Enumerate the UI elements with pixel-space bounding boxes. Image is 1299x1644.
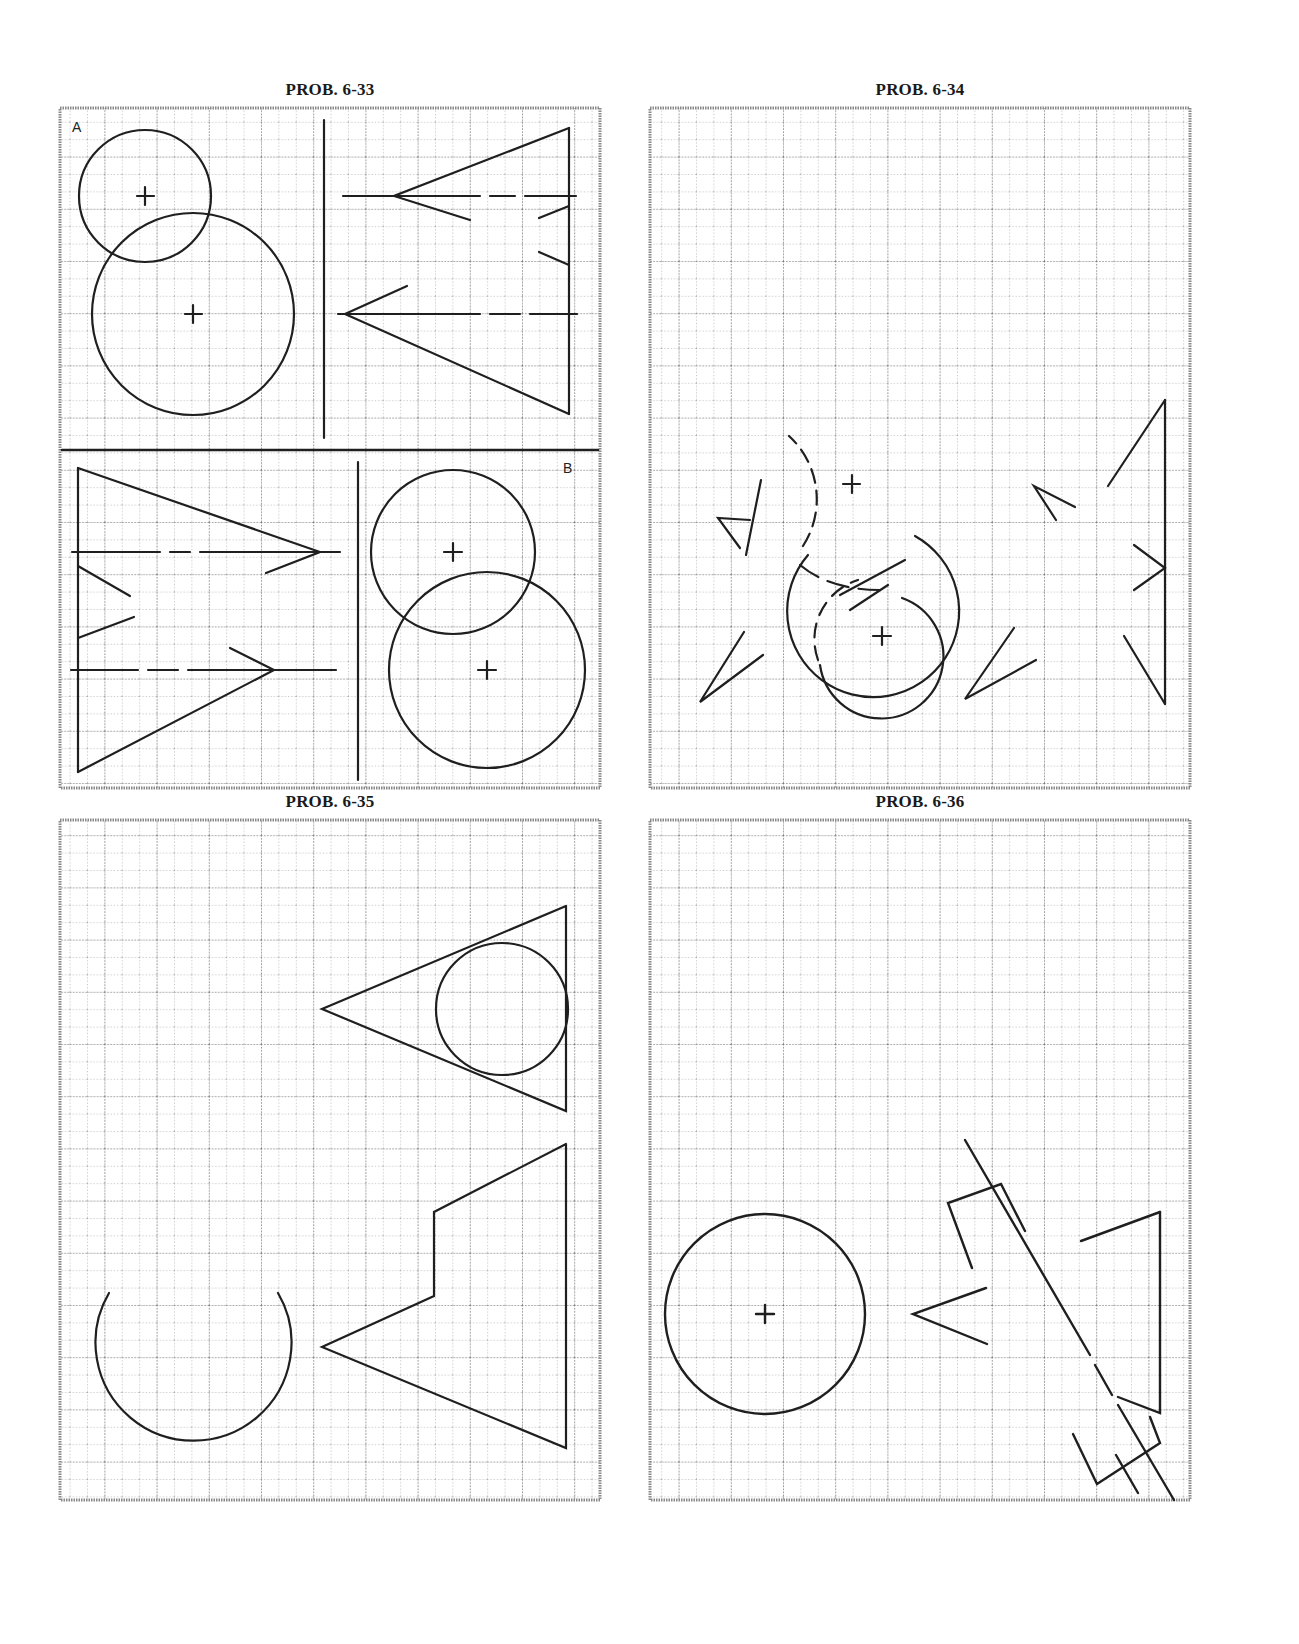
grid-panel-6-33 [60,108,600,788]
grid-panel-6-36 [650,820,1190,1500]
corner-label-b: B [563,460,572,476]
drawing-sheet [0,0,1299,1644]
worksheet-page: PROB. 6-33 PROB. 6-34 PROB. 6-35 PROB. 6… [0,0,1299,1644]
grid-panel-6-35 [60,820,600,1500]
corner-label-a: A [72,119,81,135]
grid-panel-6-34 [650,108,1190,788]
